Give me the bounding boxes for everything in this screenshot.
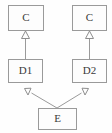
edge-line [32,93,58,108]
hollow-triangle-arrowhead-icon [86,31,94,39]
hollow-triangle-arrowhead-icon [25,88,32,95]
class-name-label: C [22,11,29,23]
node-e[interactable]: E [39,109,77,130]
node-d2[interactable]: D2 [73,60,107,83]
hollow-triangle-arrowhead-icon [22,31,30,39]
edge-d2-to-c-right [86,31,94,59]
node-d1[interactable]: D1 [9,60,43,83]
uml-class-diagram: C C D1 D2 E [0,0,112,133]
class-name-label: D2 [83,64,96,76]
hollow-triangle-arrowhead-icon [82,88,89,95]
node-c-right[interactable]: C [73,6,107,31]
class-name-label: D1 [19,64,32,76]
edge-e-to-d1 [25,88,58,108]
edge-d1-to-c-left [22,31,30,59]
edge-e-to-d2 [57,88,89,108]
class-name-label: E [54,112,61,124]
node-c-left[interactable]: C [9,6,44,31]
edge-line [57,93,82,108]
class-name-label: C [86,11,93,23]
diagram-canvas: C C D1 D2 E [0,0,112,133]
